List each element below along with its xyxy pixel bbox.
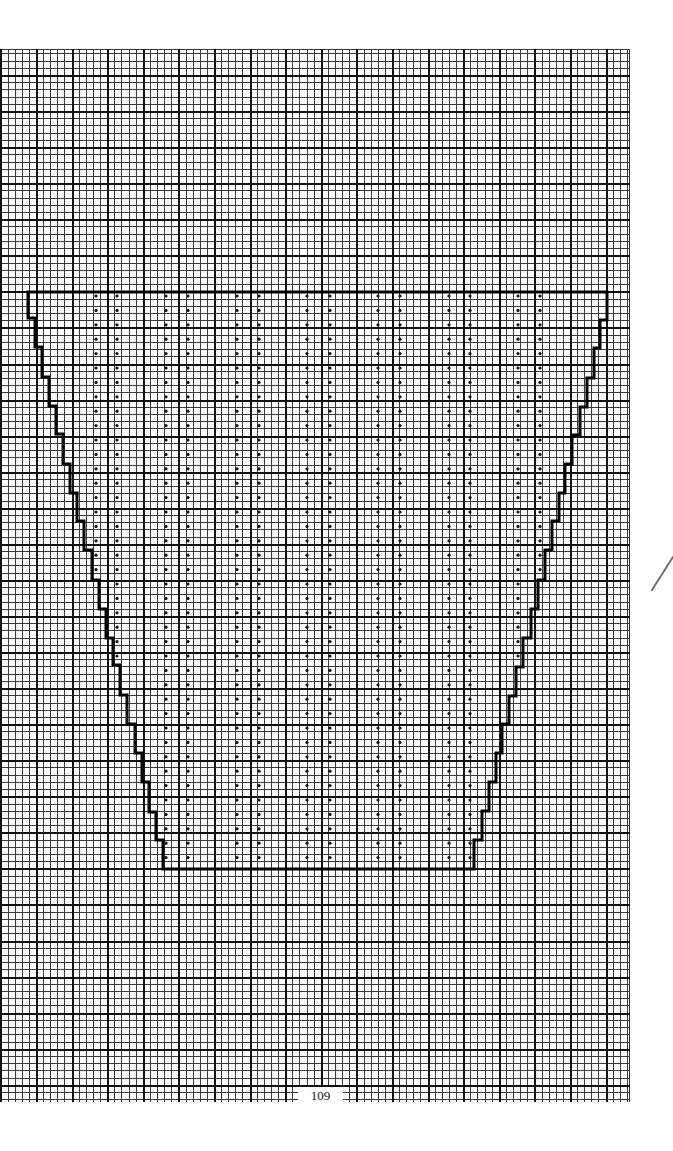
stitch-dot bbox=[447, 309, 450, 312]
stitch-dot bbox=[516, 395, 519, 398]
stitch-dot bbox=[115, 309, 118, 312]
stitch-dot bbox=[115, 438, 118, 441]
stitch-dot bbox=[305, 410, 308, 413]
stitch-dot bbox=[538, 309, 541, 312]
stitch-dot bbox=[115, 352, 118, 355]
stitch-dot bbox=[257, 482, 260, 485]
stitch-dot bbox=[235, 510, 238, 513]
stitch-dot bbox=[164, 698, 167, 701]
stitch-dot bbox=[447, 424, 450, 427]
stitch-dot bbox=[186, 712, 189, 715]
stitch-dot bbox=[94, 338, 97, 341]
stitch-dot bbox=[328, 741, 331, 744]
stitch-dot bbox=[235, 640, 238, 643]
stitch-dot bbox=[305, 784, 308, 787]
stitch-dot bbox=[447, 539, 450, 542]
stitch-dot bbox=[305, 827, 308, 830]
stitch-dot bbox=[305, 323, 308, 326]
stitch-dot bbox=[516, 568, 519, 571]
stitch-dot bbox=[328, 856, 331, 859]
stitch-dot bbox=[447, 366, 450, 369]
stitch-dot bbox=[328, 323, 331, 326]
stitch-dot bbox=[164, 827, 167, 830]
stitch-dot bbox=[164, 712, 167, 715]
stitch-dot bbox=[538, 525, 541, 528]
stitch-dot bbox=[376, 842, 379, 845]
stitch-dot bbox=[398, 654, 401, 657]
stitch-dot bbox=[516, 438, 519, 441]
stitch-dot bbox=[305, 842, 308, 845]
stitch-dot bbox=[257, 669, 260, 672]
stitch-dot bbox=[398, 827, 401, 830]
stitch-dot bbox=[257, 755, 260, 758]
stitch-dot bbox=[305, 626, 308, 629]
stitch-dot bbox=[398, 842, 401, 845]
stitch-dot bbox=[305, 482, 308, 485]
stitch-dot bbox=[305, 525, 308, 528]
stitch-dot bbox=[115, 539, 118, 542]
stitch-dot bbox=[468, 669, 471, 672]
stitch-dot bbox=[235, 467, 238, 470]
stitch-dot bbox=[447, 467, 450, 470]
stitch-dot bbox=[468, 381, 471, 384]
stitch-dot bbox=[164, 597, 167, 600]
stitch-dot bbox=[468, 554, 471, 557]
stitch-dot bbox=[376, 798, 379, 801]
stitch-dot bbox=[447, 856, 450, 859]
stitch-dot bbox=[328, 698, 331, 701]
stitch-dot bbox=[164, 309, 167, 312]
stitch-dot bbox=[516, 352, 519, 355]
stitch-dot bbox=[328, 294, 331, 297]
stitch-dot bbox=[115, 654, 118, 657]
stitch-dot bbox=[447, 510, 450, 513]
stitch-dot bbox=[538, 453, 541, 456]
stitch-dot bbox=[376, 698, 379, 701]
stitch-dot bbox=[376, 510, 379, 513]
stitch-dot bbox=[376, 496, 379, 499]
stitch-dot bbox=[468, 309, 471, 312]
stitch-dot bbox=[398, 683, 401, 686]
stitch-dot bbox=[235, 582, 238, 585]
stitch-dot bbox=[376, 366, 379, 369]
stitch-dot bbox=[376, 568, 379, 571]
stitch-dot bbox=[305, 582, 308, 585]
stitch-dot bbox=[305, 640, 308, 643]
stitch-dot bbox=[447, 798, 450, 801]
stitch-dot bbox=[376, 654, 379, 657]
stitch-dot bbox=[305, 294, 308, 297]
stitch-dot bbox=[235, 525, 238, 528]
stitch-dot bbox=[164, 784, 167, 787]
stitch-dot bbox=[115, 640, 118, 643]
stitch-dot bbox=[398, 424, 401, 427]
stitch-dot bbox=[186, 798, 189, 801]
stitch-dot bbox=[398, 453, 401, 456]
stitch-dot bbox=[447, 755, 450, 758]
stitch-dot bbox=[235, 568, 238, 571]
stitch-dot bbox=[164, 323, 167, 326]
stitch-dot bbox=[94, 467, 97, 470]
stitch-dot bbox=[164, 482, 167, 485]
stitch-dot bbox=[516, 338, 519, 341]
stitch-dot bbox=[468, 856, 471, 859]
stitch-dot bbox=[164, 654, 167, 657]
stitch-dot bbox=[257, 309, 260, 312]
stitch-dot bbox=[305, 338, 308, 341]
stitch-dot bbox=[468, 755, 471, 758]
stitch-dot bbox=[538, 496, 541, 499]
stitch-dot bbox=[447, 597, 450, 600]
stitch-dot bbox=[398, 755, 401, 758]
stitch-dot bbox=[257, 410, 260, 413]
stitch-dot bbox=[468, 798, 471, 801]
stitch-dot bbox=[164, 669, 167, 672]
stitch-dot bbox=[447, 827, 450, 830]
stitch-dot bbox=[328, 525, 331, 528]
stitch-dot bbox=[164, 381, 167, 384]
stitch-dot bbox=[447, 626, 450, 629]
stitch-dot bbox=[468, 467, 471, 470]
stitch-dot bbox=[186, 496, 189, 499]
stitch-dot bbox=[376, 438, 379, 441]
stitch-dot bbox=[468, 323, 471, 326]
stitch-dot bbox=[376, 338, 379, 341]
stitch-dot bbox=[305, 597, 308, 600]
pencil-mark bbox=[652, 557, 673, 590]
